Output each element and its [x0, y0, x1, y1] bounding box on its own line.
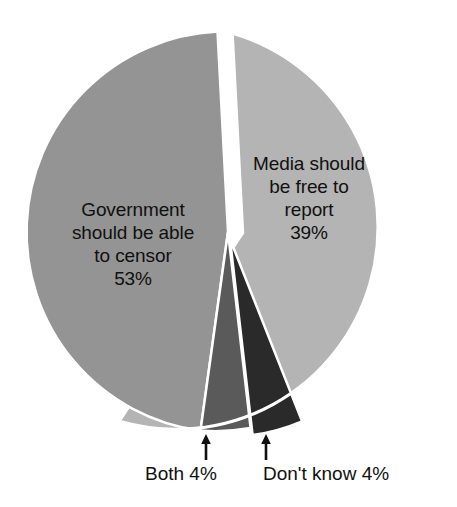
arrow-up-icon-both: [201, 434, 211, 460]
pie-chart: Government should be able to censor 53% …: [0, 0, 457, 507]
pie-callout-label-dont-know: Don't know 4%: [263, 462, 389, 485]
pie-chart-canvas: [0, 0, 457, 507]
pie-slice-government-censor[interactable]: [27, 32, 228, 431]
arrow-up-icon-dont-know: [261, 434, 271, 460]
pie-callout-label-both: Both 4%: [145, 462, 217, 485]
